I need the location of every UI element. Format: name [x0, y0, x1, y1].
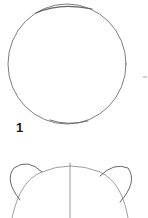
step-number-label: 1 [16, 121, 23, 134]
right-ear [100, 166, 132, 202]
step-2-bear-head [10, 163, 131, 218]
left-ear [10, 164, 42, 200]
drawing-canvas [0, 0, 148, 218]
step-1-circle [8, 4, 126, 124]
